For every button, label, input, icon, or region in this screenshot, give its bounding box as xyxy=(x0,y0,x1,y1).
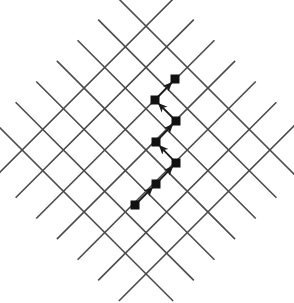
path-node-1 xyxy=(131,201,140,210)
path-node-2 xyxy=(152,180,161,189)
lattice-figure xyxy=(0,0,294,303)
path-node-5 xyxy=(172,117,181,126)
path-node-3 xyxy=(172,159,181,168)
path-node-4 xyxy=(152,138,161,147)
lattice-canvas xyxy=(0,0,294,303)
path-node-6 xyxy=(151,96,160,105)
path-node-7 xyxy=(171,75,180,84)
